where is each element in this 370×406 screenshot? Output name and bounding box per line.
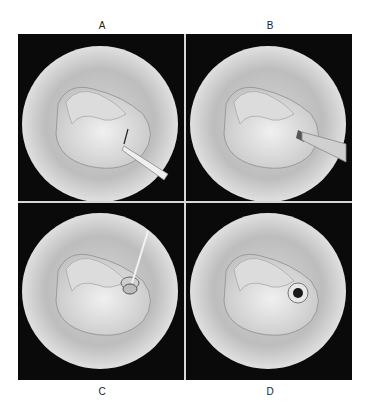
figure-grid: [18, 34, 352, 380]
ear-illustration-a: [18, 34, 184, 201]
ear-illustration-d: [186, 203, 352, 380]
label-a: A: [18, 20, 186, 31]
ear-illustration-c: [18, 203, 184, 380]
panel-d: [186, 203, 352, 380]
ear-illustration-b: [186, 34, 352, 201]
label-b: B: [186, 20, 354, 31]
label-d: D: [186, 386, 354, 397]
panel-c: [18, 203, 184, 380]
panel-a: [18, 34, 184, 201]
label-c: C: [18, 386, 186, 397]
panel-b: [186, 34, 352, 201]
